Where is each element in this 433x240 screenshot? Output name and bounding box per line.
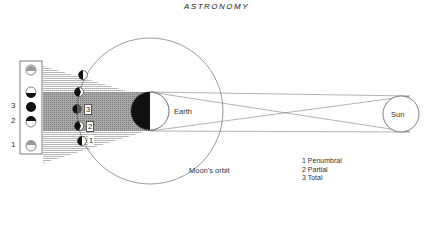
panel-number-3: 3: [11, 101, 15, 110]
orbit-moon-icon: [78, 137, 87, 146]
orbit-moon-icon: [75, 88, 84, 97]
panel-moon-icon: [26, 116, 36, 127]
orbit-moon-icon: [79, 71, 88, 80]
legend-item-partial: 2 Partial: [302, 166, 342, 175]
panel-moon-icon: [26, 140, 36, 151]
shadow-tag-partial: 2: [86, 121, 94, 132]
earth-icon: [131, 92, 169, 130]
panel-moon-icon: [26, 87, 36, 98]
orbit-moon-icon: [75, 122, 84, 131]
shadow-tag-total: 3: [84, 104, 92, 115]
shadow-tag-penumbral: 1: [88, 136, 94, 145]
earth-label: Earth: [174, 107, 192, 116]
moons-orbit-label: Moon's orbit: [189, 166, 230, 175]
panel-moon-icon: [26, 102, 36, 112]
orbit-moon-icon: [73, 105, 82, 114]
panel-moon-icon: [26, 65, 36, 75]
panel-number-2: 2: [11, 116, 15, 125]
sun-label: Sun: [391, 110, 404, 119]
legend-item-penumbral: 1 Penumbral: [302, 157, 342, 166]
panel-number-1: 1: [11, 140, 15, 149]
legend: 1 Penumbral 2 Partial 3 Total: [302, 157, 342, 183]
legend-item-total: 3 Total: [302, 174, 342, 183]
